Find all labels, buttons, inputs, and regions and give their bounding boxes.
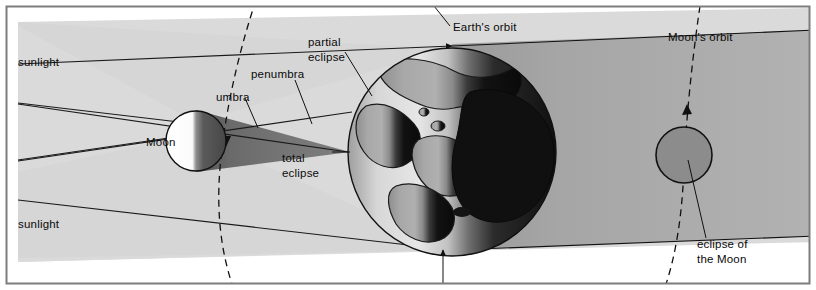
island-a <box>431 121 445 131</box>
label-total-eclipse-line1: total <box>282 152 305 164</box>
island-c <box>453 207 471 217</box>
label-sunlight-bottom: sunlight <box>18 218 60 230</box>
label-sunlight-top: sunlight <box>18 56 60 68</box>
label-eclipse-of-moon-line1: eclipse of <box>697 238 748 250</box>
label-total-eclipse-line2: eclipse <box>282 167 319 179</box>
label-eclipse-of-moon-line2: the Moon <box>697 253 747 265</box>
earth-body <box>348 48 556 256</box>
label-moon: Moon <box>146 136 176 148</box>
island-b <box>419 108 429 116</box>
label-penumbra: penumbra <box>251 68 305 80</box>
label-earths-orbit: Earth's orbit <box>453 21 517 33</box>
diagram-canvas: sunlight sunlight umbra penumbra partial… <box>0 0 816 290</box>
label-partial-eclipse-line2: eclipse <box>308 51 345 63</box>
label-umbra: umbra <box>216 91 250 103</box>
eclipsed-moon-body <box>656 127 712 183</box>
lunar-eclipse-diagram: sunlight sunlight umbra penumbra partial… <box>0 0 816 290</box>
label-moons-orbit: Moon's orbit <box>668 31 733 43</box>
label-partial-eclipse-line1: partial <box>308 36 341 48</box>
